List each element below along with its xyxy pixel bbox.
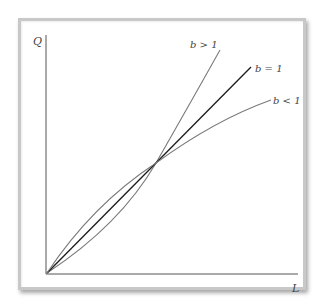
production-function-diagram: Q L b > 1 b = 1 b < 1 — [0, 0, 324, 308]
curve-b-less-1 — [47, 100, 271, 273]
x-axis-label: L — [291, 282, 299, 295]
y-axis-label: Q — [33, 35, 42, 48]
label-b-greater-1: b > 1 — [190, 39, 218, 50]
label-b-equal-1: b = 1 — [255, 63, 283, 74]
label-b-less-1: b < 1 — [273, 95, 301, 106]
curve-b-equal-1 — [47, 67, 251, 273]
curve-b-greater-1 — [47, 50, 220, 273]
